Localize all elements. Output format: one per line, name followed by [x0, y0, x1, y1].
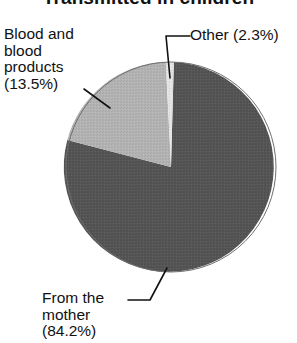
pie-chart-figure: Transmitted in children	[0, 0, 297, 343]
slice-label-from-the-mother: From the mother (84.2%)	[42, 290, 104, 340]
leader-line-from-the-mother	[128, 268, 167, 300]
slice-label-other: Other (2.3%)	[190, 27, 279, 44]
slice-label-blood-and-blood-products: Blood and blood products (13.5%)	[4, 26, 74, 92]
